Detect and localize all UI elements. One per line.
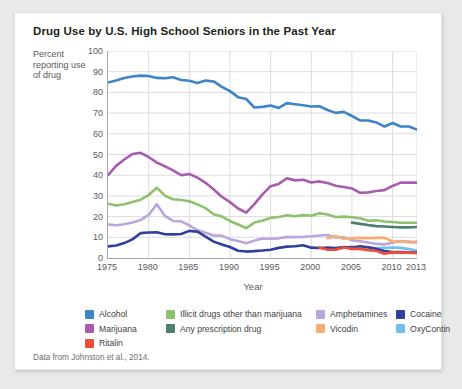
- legend-swatch-icon: [85, 339, 94, 348]
- legend-item-label: Alcohol: [99, 309, 127, 319]
- legend-item[interactable]: Amphetamines: [316, 309, 387, 319]
- y-axis-ticks: 0102030405060708090100: [79, 51, 105, 259]
- legend-item-label: Ritalin: [99, 338, 123, 348]
- x-axis-label: Year: [79, 281, 427, 292]
- legend-item-label: Amphetamines: [330, 309, 387, 319]
- y-tick-label: 30: [93, 191, 103, 201]
- y-tick-label: 40: [93, 170, 103, 180]
- legend-swatch-icon: [166, 310, 175, 319]
- legend-item[interactable]: Ritalin: [85, 338, 137, 348]
- x-tick-label: 1995: [260, 262, 280, 272]
- page-title: Drug Use by U.S. High School Seniors in …: [33, 25, 336, 37]
- y-tick-label: 50: [93, 150, 103, 160]
- legend-column: AmphetaminesVicodin: [316, 309, 387, 338]
- legend-swatch-icon: [316, 310, 325, 319]
- plot-area-wrapper: 0102030405060708090100 19751980198519901…: [79, 51, 427, 273]
- legend-item[interactable]: Any prescription drug: [166, 324, 302, 334]
- legend-item[interactable]: Vicodin: [316, 324, 387, 334]
- legend-item[interactable]: Alcohol: [85, 309, 137, 319]
- y-tick-label: 80: [93, 87, 103, 97]
- y-tick-label: 100: [88, 46, 103, 56]
- legend-item-label: Illicit drugs other than marijuana: [180, 309, 302, 319]
- legend-item-label: Marijuana: [99, 324, 137, 334]
- plot-canvas: [107, 51, 417, 259]
- legend-swatch-icon: [85, 324, 94, 333]
- legend-item-label: OxyContin: [410, 324, 450, 334]
- y-tick-label: 70: [93, 108, 103, 118]
- legend-swatch-icon: [85, 310, 94, 319]
- y-tick-label: 10: [93, 232, 103, 242]
- legend-item-label: Vicodin: [330, 324, 358, 334]
- legend-swatch-icon: [396, 310, 405, 319]
- legend-item-label: Any prescription drug: [180, 324, 261, 334]
- y-tick-label: 60: [93, 129, 103, 139]
- x-tick-label: 2005: [341, 262, 361, 272]
- legend-item[interactable]: Marijuana: [85, 324, 137, 334]
- legend-item[interactable]: OxyContin: [396, 324, 450, 334]
- legend-swatch-icon: [166, 324, 175, 333]
- x-tick-label: 1980: [138, 262, 158, 272]
- x-tick-label: 1990: [219, 262, 239, 272]
- y-tick-label: 90: [93, 67, 103, 77]
- x-tick-label: 1985: [178, 262, 198, 272]
- source-note: Data from Johnston et al., 2014.: [33, 353, 150, 362]
- x-tick-label: 2010: [382, 262, 402, 272]
- legend-column: Illicit drugs other than marijuanaAny pr…: [166, 309, 302, 338]
- x-tick-label: 2000: [300, 262, 320, 272]
- x-tick-label: 1975: [97, 262, 117, 272]
- legend-item[interactable]: Illicit drugs other than marijuana: [166, 309, 302, 319]
- series-line: [108, 153, 417, 213]
- x-tick-label: 2013: [406, 262, 426, 272]
- legend-swatch-icon: [316, 324, 325, 333]
- legend-swatch-icon: [396, 324, 405, 333]
- y-tick-label: 20: [93, 212, 103, 222]
- legend-column: AlcoholMarijuanaRitalin: [85, 309, 137, 353]
- legend-item-label: Cocaine: [410, 309, 442, 319]
- chart-card: Drug Use by U.S. High School Seniors in …: [14, 12, 442, 370]
- legend-column: CocaineOxyContin: [396, 309, 450, 338]
- legend-item[interactable]: Cocaine: [396, 309, 450, 319]
- line-chart-svg: [108, 51, 417, 258]
- series-line: [108, 76, 417, 130]
- x-axis-ticks: 197519801985199019952000200520102013: [107, 260, 417, 274]
